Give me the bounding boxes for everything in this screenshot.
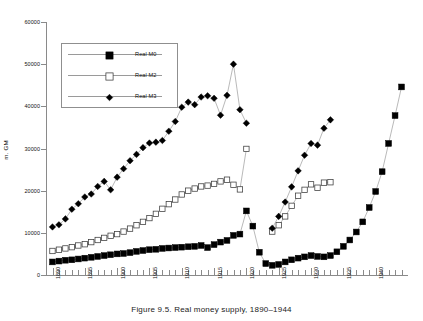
data-point-marker <box>399 84 405 90</box>
y-axis-tick <box>41 149 47 150</box>
data-point-marker <box>328 253 334 259</box>
data-point-marker <box>69 257 75 263</box>
legend-entry[interactable]: Real M2 <box>62 65 177 86</box>
x-axis-minor-tick <box>130 270 131 276</box>
data-point-marker <box>185 244 191 250</box>
data-point-marker <box>328 180 333 185</box>
x-axis-minor-tick <box>72 270 73 276</box>
data-point-marker <box>147 215 152 220</box>
data-point-marker <box>340 243 346 249</box>
y-axis-tick <box>41 191 47 192</box>
data-point-marker <box>224 238 230 244</box>
data-point-marker <box>56 247 61 252</box>
y-axis-tick <box>41 106 47 107</box>
data-point-marker <box>302 254 308 260</box>
x-axis-minor-tick <box>65 270 66 276</box>
data-point-marker <box>217 112 224 119</box>
data-point-marker <box>121 229 126 234</box>
data-point-marker <box>327 117 334 124</box>
x-axis-major-tick <box>246 268 247 276</box>
data-point-marker <box>321 180 326 185</box>
data-point-marker <box>69 244 74 249</box>
x-axis-tick-label: 1915 <box>217 267 223 279</box>
x-axis-major-tick <box>279 268 280 276</box>
data-point-marker <box>178 104 185 111</box>
legend-label: Real M2 <box>135 71 157 79</box>
x-axis-minor-tick <box>201 270 202 276</box>
data-point-marker <box>127 226 132 231</box>
data-point-marker <box>166 128 173 135</box>
x-axis-minor-tick <box>356 270 357 276</box>
data-point-marker <box>321 254 327 260</box>
data-point-marker <box>231 182 236 187</box>
x-axis-minor-tick <box>195 270 196 276</box>
data-point-marker <box>275 213 282 220</box>
data-point-marker <box>159 137 166 144</box>
x-axis-minor-tick <box>298 270 299 276</box>
data-point-marker <box>218 239 224 245</box>
data-point-marker <box>244 146 249 151</box>
data-point-marker <box>301 152 308 159</box>
data-point-marker <box>121 251 127 257</box>
x-axis-minor-tick <box>402 270 403 276</box>
data-point-marker <box>107 187 114 194</box>
x-axis-minor-tick <box>208 270 209 276</box>
x-axis-minor-tick <box>324 270 325 276</box>
data-point-marker <box>166 245 172 251</box>
legend-label: Real M3 <box>135 92 157 100</box>
data-point-marker <box>243 120 250 127</box>
x-axis-minor-tick <box>111 270 112 276</box>
data-point-marker <box>114 251 120 257</box>
y-axis-tick <box>41 22 47 23</box>
x-axis-tick-label: 1900 <box>120 267 126 279</box>
data-point-marker <box>153 246 159 252</box>
data-point-marker <box>276 223 281 228</box>
x-axis-tick-label: 1895 <box>87 267 93 279</box>
data-point-marker <box>56 258 62 264</box>
data-point-marker <box>360 219 366 225</box>
data-point-marker <box>185 99 192 106</box>
data-point-marker <box>315 254 321 260</box>
data-point-marker <box>160 206 165 211</box>
legend-entry[interactable]: Real M3 <box>62 86 177 107</box>
data-point-marker <box>179 192 184 197</box>
data-point-marker <box>82 255 88 261</box>
data-point-marker <box>172 118 179 125</box>
data-point-marker <box>230 61 237 68</box>
data-point-marker <box>95 254 101 260</box>
data-point-marker <box>179 244 185 250</box>
data-point-marker <box>308 253 314 259</box>
x-axis-minor-tick <box>363 270 364 276</box>
data-point-marker <box>315 185 320 190</box>
data-point-marker <box>147 247 153 253</box>
data-point-marker <box>288 184 295 191</box>
y-axis-tick <box>41 233 47 234</box>
data-point-marker <box>50 259 56 265</box>
data-point-marker <box>231 232 237 238</box>
x-axis-major-tick <box>53 268 54 276</box>
data-point-marker <box>89 239 94 244</box>
data-point-marker <box>282 214 287 219</box>
data-point-marker <box>379 169 385 175</box>
data-point-marker <box>153 139 160 146</box>
data-point-marker <box>250 223 256 229</box>
x-axis-minor-tick <box>169 270 170 276</box>
legend-entry[interactable]: Real M0 <box>62 44 177 65</box>
data-point-marker <box>192 243 198 249</box>
y-axis-tick <box>41 275 47 276</box>
x-axis-major-tick <box>149 268 150 276</box>
data-point-marker <box>95 237 100 242</box>
x-axis-tick-label: 1930 <box>313 267 319 279</box>
data-point-marker <box>159 246 165 252</box>
data-point-marker <box>392 113 398 119</box>
data-point-marker <box>114 231 119 236</box>
data-point-marker <box>263 261 269 267</box>
data-point-marker <box>295 168 302 175</box>
data-point-marker <box>76 243 81 248</box>
data-point-marker <box>314 142 321 149</box>
x-axis-minor-tick <box>266 270 267 276</box>
data-point-marker <box>172 245 178 251</box>
data-point-marker <box>347 237 353 243</box>
x-axis-tick-label: 1910 <box>184 267 190 279</box>
data-point-marker <box>63 246 68 251</box>
